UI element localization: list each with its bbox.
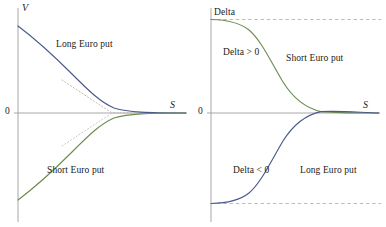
long-put-payoff-dotted xyxy=(62,80,186,113)
curve-label-long-euro-put: Long Euro put xyxy=(56,40,113,50)
region-label-negative-delta: Delta < 0 xyxy=(233,166,269,176)
y-axis-label: Delta xyxy=(214,8,235,18)
delta-plot-svg xyxy=(193,0,386,227)
curve-label-short-euro-put: Short Euro put xyxy=(47,166,104,176)
short-euro-put-delta-curve xyxy=(211,20,379,114)
delta-plot-panel: Delta S 0 Delta > 0 Short Euro put Delta… xyxy=(193,0,386,227)
origin-tick-label: 0 xyxy=(5,107,10,117)
long-euro-put-delta-curve xyxy=(211,111,379,203)
option-value-plot-svg xyxy=(0,0,193,227)
region-label-positive-delta: Delta > 0 xyxy=(223,48,259,58)
option-value-plot-panel: V S 0 Long Euro put Short Euro put xyxy=(0,0,193,227)
curve-label-short-euro-put: Short Euro put xyxy=(286,54,343,64)
x-axis-label: S xyxy=(363,100,368,110)
x-axis-label: S xyxy=(170,100,175,110)
y-axis-label: V xyxy=(22,3,28,13)
figure-two-panel-option-plots: V S 0 Long Euro put Short Euro put Delta… xyxy=(0,0,386,227)
origin-tick-label: 0 xyxy=(198,107,203,117)
curve-label-long-euro-put: Long Euro put xyxy=(300,166,357,176)
short-euro-put-value-curve xyxy=(18,113,186,200)
short-put-payoff-dotted xyxy=(62,113,186,146)
